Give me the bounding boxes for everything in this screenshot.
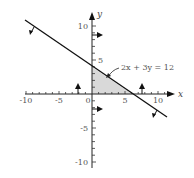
line-arrow-marker-icon: [29, 27, 34, 35]
equation-label: 2x + 3y = 12: [121, 63, 174, 72]
y-axis-label: y: [96, 9, 103, 19]
x-axis-arrow-marker-icon: [75, 83, 81, 94]
x-axis-label: x: [178, 89, 183, 99]
x-tick-label: -5: [55, 96, 63, 105]
y-axis-arrowhead-icon: [89, 12, 95, 20]
x-tick-label: -10: [20, 96, 33, 105]
x-tick-label: 10: [153, 96, 163, 105]
x-axis-arrow-marker-icon: [139, 83, 145, 94]
y-axis-arrow-marker-icon: [92, 106, 103, 112]
y-tick-label: 10: [78, 22, 88, 31]
x-tick-label: 0: [85, 96, 90, 105]
y-tick-label: -5: [80, 124, 88, 133]
graph-canvas: -10 -5 0 5 10 x: [0, 0, 194, 178]
x-tick-label: 5: [122, 96, 127, 105]
y-tick-label: 5: [98, 56, 103, 65]
line-arrow-marker-icon: [152, 110, 157, 118]
y-tick-label: -10: [75, 158, 88, 167]
x-axis-arrowhead-icon: [167, 91, 175, 97]
